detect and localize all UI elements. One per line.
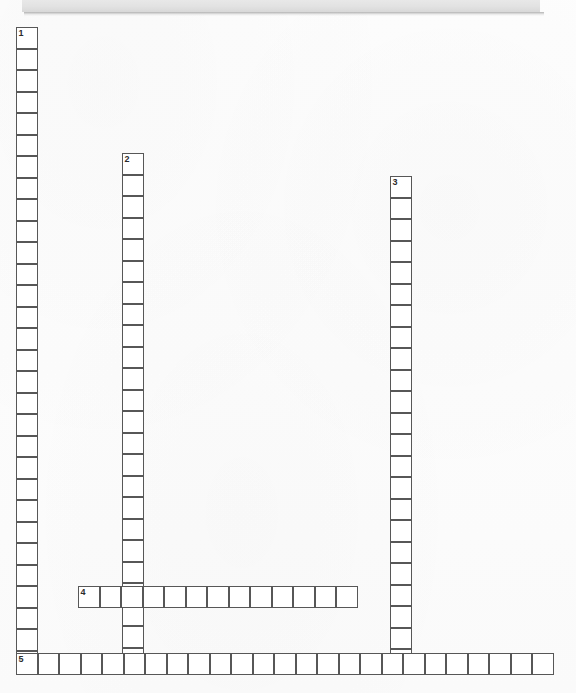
crossword-cell[interactable]: [390, 198, 412, 220]
crossword-cell[interactable]: 3: [390, 176, 412, 198]
crossword-cell[interactable]: [121, 586, 143, 608]
crossword-cell[interactable]: [390, 520, 412, 542]
crossword-cell[interactable]: [122, 282, 144, 304]
crossword-cell[interactable]: [16, 414, 38, 436]
crossword-cell[interactable]: [81, 653, 103, 675]
crossword-cell[interactable]: [16, 92, 38, 114]
crossword-cell[interactable]: [102, 653, 124, 675]
crossword-cell[interactable]: 4: [78, 586, 100, 608]
crossword-cell[interactable]: [16, 371, 38, 393]
crossword-cell[interactable]: [188, 653, 210, 675]
crossword-cell[interactable]: [382, 653, 404, 675]
crossword-cell[interactable]: [360, 653, 382, 675]
crossword-cell[interactable]: [16, 307, 38, 329]
crossword-cell[interactable]: [425, 653, 447, 675]
crossword-cell[interactable]: [16, 285, 38, 307]
crossword-cell[interactable]: [122, 411, 144, 433]
crossword-cell[interactable]: [16, 70, 38, 92]
crossword-cell[interactable]: [143, 586, 165, 608]
crossword-cell[interactable]: [231, 653, 253, 675]
crossword-cell[interactable]: [122, 562, 144, 584]
crossword-cell[interactable]: [390, 499, 412, 521]
crossword-cell[interactable]: [16, 436, 38, 458]
crossword-cell[interactable]: [403, 653, 425, 675]
crossword-cell[interactable]: [122, 325, 144, 347]
crossword-cell[interactable]: [390, 241, 412, 263]
crossword-cell[interactable]: [145, 653, 167, 675]
crossword-cell[interactable]: [390, 477, 412, 499]
crossword-cell[interactable]: [16, 629, 38, 651]
crossword-cell[interactable]: [390, 456, 412, 478]
crossword-cell[interactable]: [122, 239, 144, 261]
crossword-cell[interactable]: [16, 199, 38, 221]
crossword-cell[interactable]: [207, 586, 229, 608]
crossword-cell[interactable]: [390, 542, 412, 564]
crossword-cell[interactable]: [100, 586, 122, 608]
crossword-cell[interactable]: [122, 218, 144, 240]
crossword-cell[interactable]: [272, 586, 294, 608]
crossword-cell[interactable]: [336, 586, 358, 608]
crossword-cell[interactable]: [390, 628, 412, 650]
crossword-cell[interactable]: [296, 653, 318, 675]
crossword-cell[interactable]: [122, 196, 144, 218]
crossword-cell[interactable]: [16, 221, 38, 243]
crossword-cell[interactable]: [16, 479, 38, 501]
crossword-cell[interactable]: [122, 304, 144, 326]
crossword-cell[interactable]: [122, 605, 144, 627]
crossword-cell[interactable]: [390, 219, 412, 241]
crossword-cell[interactable]: [122, 433, 144, 455]
crossword-cell[interactable]: [446, 653, 468, 675]
crossword-cell[interactable]: [16, 264, 38, 286]
crossword-cell[interactable]: [390, 585, 412, 607]
crossword-cell[interactable]: [315, 586, 337, 608]
crossword-cell[interactable]: [468, 653, 490, 675]
crossword-cell[interactable]: [16, 242, 38, 264]
crossword-cell[interactable]: [317, 653, 339, 675]
crossword-cell[interactable]: 2: [122, 153, 144, 175]
crossword-cell[interactable]: [16, 457, 38, 479]
crossword-cell[interactable]: [122, 175, 144, 197]
crossword-cell[interactable]: [390, 434, 412, 456]
crossword-cell[interactable]: [122, 368, 144, 390]
crossword-cell[interactable]: [390, 391, 412, 413]
crossword-cell[interactable]: [274, 653, 296, 675]
crossword-cell[interactable]: [16, 565, 38, 587]
crossword-cell[interactable]: [390, 413, 412, 435]
crossword-cell[interactable]: [489, 653, 511, 675]
crossword-cell[interactable]: [16, 328, 38, 350]
crossword-cell[interactable]: [532, 653, 554, 675]
crossword-cell[interactable]: [339, 653, 361, 675]
crossword-cell[interactable]: [164, 586, 186, 608]
crossword-cell[interactable]: [511, 653, 533, 675]
crossword-cell[interactable]: [167, 653, 189, 675]
crossword-cell[interactable]: [16, 156, 38, 178]
crossword-cell[interactable]: [390, 327, 412, 349]
crossword-cell[interactable]: [16, 135, 38, 157]
crossword-cell[interactable]: [16, 350, 38, 372]
crossword-cell[interactable]: [38, 653, 60, 675]
crossword-cell[interactable]: [293, 586, 315, 608]
crossword-cell[interactable]: [16, 543, 38, 565]
crossword-cell[interactable]: [122, 476, 144, 498]
crossword-cell[interactable]: [390, 305, 412, 327]
crossword-cell[interactable]: [122, 347, 144, 369]
crossword-cell[interactable]: [16, 608, 38, 630]
crossword-cell[interactable]: [16, 49, 38, 71]
crossword-cell[interactable]: [122, 454, 144, 476]
crossword-cell[interactable]: [122, 540, 144, 562]
crossword-cell[interactable]: [122, 390, 144, 412]
crossword-cell[interactable]: [16, 113, 38, 135]
crossword-cell[interactable]: [250, 586, 272, 608]
crossword-cell[interactable]: [16, 393, 38, 415]
crossword-cell[interactable]: [16, 178, 38, 200]
crossword-cell[interactable]: [122, 519, 144, 541]
crossword-cell[interactable]: [390, 284, 412, 306]
crossword-cell[interactable]: [16, 522, 38, 544]
crossword-cell[interactable]: [124, 653, 146, 675]
crossword-cell[interactable]: 1: [16, 27, 38, 49]
crossword-cell[interactable]: [122, 626, 144, 648]
crossword-cell[interactable]: [390, 370, 412, 392]
crossword-cell[interactable]: [59, 653, 81, 675]
crossword-cell[interactable]: [16, 500, 38, 522]
crossword-cell[interactable]: 5: [16, 653, 38, 675]
